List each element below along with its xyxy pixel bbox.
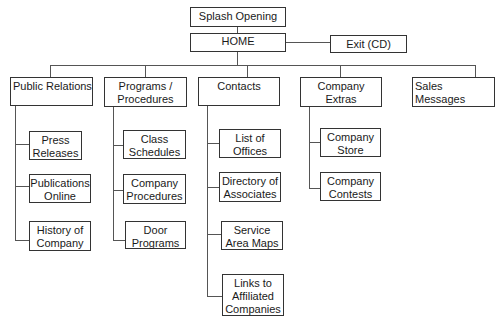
- node-label: Programs /: [105, 80, 186, 93]
- node-label: Extras: [301, 93, 381, 106]
- node-list-of-offices: List ofOffices: [219, 129, 281, 158]
- node-company-extras: CompanyExtras: [300, 77, 382, 107]
- node-programs-procedures: Programs /Procedures: [104, 77, 187, 107]
- connector: [340, 65, 341, 77]
- connector: [207, 105, 208, 296]
- node-company-procedures: CompanyProcedures: [123, 174, 186, 204]
- connector: [50, 65, 475, 66]
- connector: [113, 240, 125, 241]
- connector: [285, 42, 330, 43]
- connector: [309, 106, 310, 188]
- connector: [207, 143, 219, 144]
- node-directory-of-associates: Directory ofAssociates: [219, 172, 281, 202]
- connector: [15, 105, 16, 240]
- site-map-diagram: Splash Opening HOME Exit (CD) Public Rel…: [0, 0, 503, 326]
- node-company-store: CompanyStore: [320, 128, 381, 157]
- node-door-programs: DoorPrograms: [125, 221, 186, 249]
- node-sales-messages: Sales Messages: [412, 77, 495, 107]
- connector: [15, 240, 29, 241]
- connector: [207, 296, 222, 297]
- connector: [15, 144, 29, 145]
- node-home: HOME: [190, 33, 286, 52]
- node-label: Company: [301, 80, 381, 93]
- node-label: Sales Messages: [415, 80, 465, 105]
- node-history-of-company: History ofCompany: [29, 221, 91, 251]
- node-exit-cd: Exit (CD): [330, 35, 407, 53]
- connector: [309, 188, 320, 189]
- connector: [475, 65, 476, 77]
- connector: [207, 234, 221, 235]
- node-class-schedules: ClassSchedules: [123, 130, 186, 159]
- connector: [247, 65, 248, 77]
- connector: [15, 186, 29, 187]
- node-contacts: Contacts: [198, 77, 280, 106]
- connector: [145, 65, 146, 77]
- node-service-area-maps: ServiceArea Maps: [221, 221, 283, 250]
- connector: [237, 51, 238, 65]
- node-label: Exit (CD): [346, 38, 391, 50]
- connector: [309, 142, 320, 143]
- connector: [113, 145, 123, 146]
- node-label: Splash Opening: [199, 10, 277, 22]
- node-label: Contacts: [217, 80, 260, 92]
- connector: [237, 26, 238, 33]
- connector: [113, 106, 114, 240]
- node-company-contests: CompanyContests: [320, 172, 381, 201]
- connector: [113, 190, 123, 191]
- node-label: HOME: [222, 35, 255, 47]
- node-publications-online: PublicationsOnline: [29, 174, 91, 203]
- node-public-relations: Public Relations: [10, 77, 93, 106]
- node-label: Public Relations: [13, 80, 92, 92]
- node-label: Procedures: [105, 93, 186, 106]
- connector: [50, 65, 51, 77]
- node-links-affiliated-companies: Links toAffiliatedCompanies: [222, 274, 284, 316]
- node-press-releases: PressReleases: [29, 131, 82, 160]
- node-splash-opening: Splash Opening: [190, 7, 286, 27]
